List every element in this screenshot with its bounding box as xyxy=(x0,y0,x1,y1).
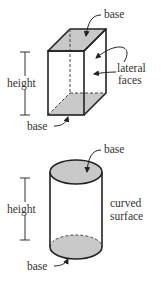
cylinder: height base curved surface base xyxy=(6,143,143,272)
prism-lateral-label-line1: lateral xyxy=(117,62,146,74)
cylinder-bottom-base-label: base xyxy=(27,260,47,272)
cylinder-curved-label-line2: surface xyxy=(110,210,143,222)
prism-lateral-arrow-lower-icon xyxy=(94,72,116,74)
prism-top-base xyxy=(48,29,106,51)
cylinder-height-label: height xyxy=(7,203,37,216)
cylinder-top-base xyxy=(50,160,102,184)
prism-top-base-label: base xyxy=(104,8,124,20)
cylinder-top-base-label: base xyxy=(104,143,124,155)
prism-lateral-label-line2: faces xyxy=(118,74,142,86)
prism-height-label: height xyxy=(7,77,37,90)
prism-bottom-base xyxy=(48,93,106,115)
rectangular-prism: height base lateral faces base xyxy=(6,8,146,132)
solids-diagram: height base lateral faces base height xyxy=(0,0,161,285)
cylinder-curved-label-line1: curved xyxy=(110,197,142,209)
cylinder-bottom-base-arrow-icon xyxy=(54,259,68,266)
prism-bottom-base-label: base xyxy=(27,120,47,132)
prism-bottom-base-arrow-icon xyxy=(54,117,68,126)
prism-lateral-arrow-upper-icon xyxy=(96,47,127,62)
